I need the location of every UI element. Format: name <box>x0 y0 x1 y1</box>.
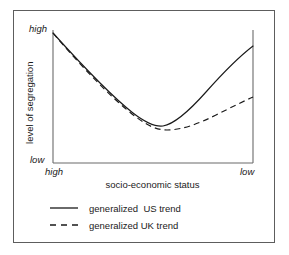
chart-legend: generalized US trend generalized UK tren… <box>50 200 250 234</box>
y-axis-title: level of segregation <box>25 57 35 149</box>
x-axis-tick-high: high <box>45 167 63 177</box>
y-axis-tick-low: low <box>30 155 44 165</box>
legend-item-us: generalized US trend <box>50 200 250 217</box>
series-line-uk-trend <box>53 33 253 130</box>
legend-swatch-dashed-icon <box>50 224 78 226</box>
y-axis-tick-high: high <box>29 24 47 34</box>
figure-container: high low high low level of segregation s… <box>0 0 289 255</box>
legend-item-uk: generalized UK trend <box>50 217 250 234</box>
series-line-us-trend <box>53 33 253 126</box>
legend-label-uk: generalized UK trend <box>89 217 178 234</box>
x-axis-title: socio-economic status <box>52 180 253 190</box>
legend-label-us: generalized US trend <box>89 200 181 217</box>
x-axis-tick-low: low <box>240 167 254 177</box>
legend-swatch-solid-icon <box>50 207 78 209</box>
plot-area: high low high low level of segregation s… <box>0 0 289 255</box>
